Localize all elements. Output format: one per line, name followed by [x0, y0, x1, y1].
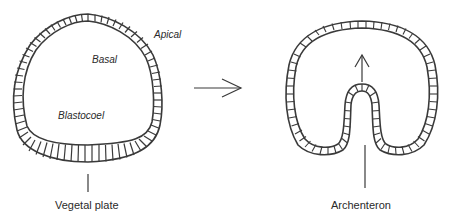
label-blastocoel: Blastocoel: [58, 110, 104, 121]
right-arrow-icon: [194, 79, 241, 97]
gastrula-epithelium: [286, 21, 438, 155]
label-vegetal-plate: Vegetal plate: [55, 199, 119, 211]
label-basal: Basal: [92, 54, 117, 65]
blastula-epithelium: [13, 14, 162, 162]
up-arrow-icon: [355, 55, 369, 82]
label-apical: Apical: [154, 29, 181, 40]
label-archenteron: Archenteron: [331, 199, 391, 211]
